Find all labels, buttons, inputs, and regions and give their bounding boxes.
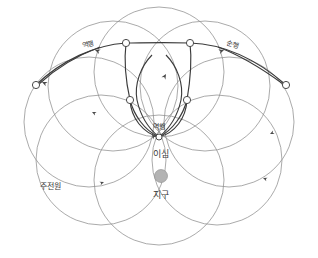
epicycle-4 xyxy=(24,57,154,187)
epicycle-1 xyxy=(94,7,224,137)
label-retrograde-center: 역행 xyxy=(153,122,165,131)
dir-marker-upper-right xyxy=(269,131,274,136)
label-epicycle: 주전원 xyxy=(40,181,61,191)
node-far-right xyxy=(282,81,289,88)
label-eccentric: 이심 xyxy=(153,149,169,159)
node-upper-right xyxy=(186,39,193,46)
epicycle-5 xyxy=(164,57,294,187)
label-earth: 지구 xyxy=(153,190,169,200)
dir-marker-lower-left xyxy=(99,180,104,185)
node-inner-left xyxy=(126,96,133,103)
node-eccentric xyxy=(156,134,162,140)
earth-body xyxy=(155,170,168,183)
label-retrograde-left: 역행 xyxy=(81,39,95,51)
arrowhead-center-rise xyxy=(161,73,168,80)
planet-path-outer-sweep xyxy=(36,43,286,85)
circle-direction-marker-group xyxy=(91,110,274,185)
diagram-canvas: 역행 순행 역행 이심 지구 주전원 xyxy=(0,0,318,258)
node-far-left xyxy=(32,81,39,88)
node-upper-left xyxy=(122,39,129,46)
label-prograde-right: 순행 xyxy=(225,39,239,51)
epicycle-diagram: 역행 순행 역행 이심 지구 주전원 xyxy=(0,0,318,258)
planet-path-right-tail xyxy=(218,47,283,84)
dir-marker-upper-left xyxy=(91,110,96,115)
node-inner-right xyxy=(183,96,190,103)
